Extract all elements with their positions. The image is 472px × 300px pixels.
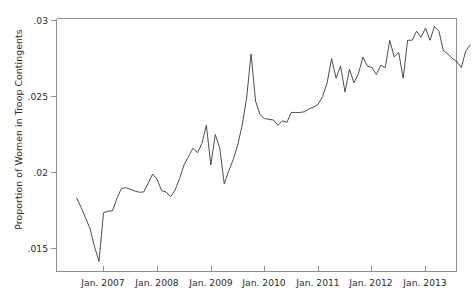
y-axis-title: Proportion of Women in Troop Contingents: [13, 10, 24, 250]
y-tick-label: .025: [28, 91, 48, 102]
y-tick-label: .03: [33, 15, 48, 26]
plot-canvas: [0, 0, 472, 300]
y-axis-ticks: [51, 21, 57, 249]
x-tick-label-2011: Jan. 2011: [296, 277, 339, 288]
data-series-line: [77, 27, 471, 262]
x-tick-label-2008: Jan. 2008: [135, 277, 178, 288]
plot-frame: [57, 19, 457, 272]
line-chart: Proportion of Women in Troop Contingents…: [0, 0, 472, 300]
x-tick-label-2007: Jan. 2007: [81, 277, 124, 288]
x-tick-label-2012: Jan. 2012: [349, 277, 392, 288]
x-tick-label-2009: Jan. 2009: [189, 277, 232, 288]
x-tick-label-2010: Jan. 2010: [242, 277, 285, 288]
y-tick-label: .02: [33, 167, 48, 178]
x-axis-ticks: [104, 266, 426, 272]
x-tick-label-2013: Jan. 2013: [403, 277, 446, 288]
y-tick-label: .015: [28, 243, 48, 254]
chart-screenshot: Proportion of Women in Troop Contingents…: [0, 0, 472, 300]
